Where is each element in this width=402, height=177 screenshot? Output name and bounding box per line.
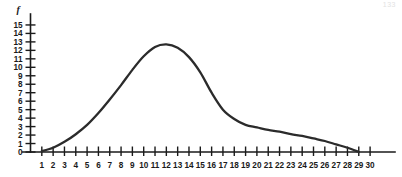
x-tick-label-21: 21 bbox=[264, 161, 274, 170]
x-tick-label-15: 15 bbox=[196, 161, 206, 170]
y-tick-label-8: 8 bbox=[18, 80, 23, 89]
y-tick-label-5: 5 bbox=[18, 106, 23, 115]
y-tick-label-1: 1 bbox=[18, 140, 23, 149]
page-number: 133 bbox=[383, 1, 396, 8]
chart-canvas: 0123456789101112131415 12345678910111213… bbox=[0, 0, 402, 177]
x-tick-label-25: 25 bbox=[309, 161, 319, 170]
x-tick-label-29: 29 bbox=[354, 161, 364, 170]
x-tick-label-10: 10 bbox=[139, 161, 149, 170]
x-tick-label-30: 30 bbox=[366, 161, 376, 170]
x-tick-label-18: 18 bbox=[230, 161, 240, 170]
y-tick-label-13: 13 bbox=[13, 38, 23, 47]
x-tick-label-14: 14 bbox=[184, 161, 194, 170]
x-tick-label-3: 3 bbox=[62, 161, 67, 170]
x-tick-label-11: 11 bbox=[151, 161, 160, 170]
x-tick-label-16: 16 bbox=[207, 161, 217, 170]
x-tick-label-4: 4 bbox=[73, 161, 78, 170]
x-tick-label-8: 8 bbox=[119, 161, 124, 170]
frequency-curve-figure: 133 0123456789101112131415 1234567891011… bbox=[0, 0, 402, 177]
y-axis-tick-labels: 0123456789101112131415 bbox=[13, 21, 23, 157]
y-tick-label-14: 14 bbox=[13, 29, 23, 38]
y-axis-label: f bbox=[17, 4, 22, 15]
y-tick-label-11: 11 bbox=[14, 55, 23, 64]
x-tick-label-26: 26 bbox=[320, 161, 330, 170]
frequency-curve-path bbox=[42, 44, 359, 152]
x-tick-label-1: 1 bbox=[40, 161, 45, 170]
y-tick-label-3: 3 bbox=[18, 123, 23, 132]
x-tick-label-24: 24 bbox=[298, 161, 308, 170]
x-tick-label-7: 7 bbox=[107, 161, 112, 170]
x-tick-label-20: 20 bbox=[252, 161, 262, 170]
x-tick-label-22: 22 bbox=[275, 161, 285, 170]
x-tick-label-28: 28 bbox=[343, 161, 353, 170]
y-tick-label-9: 9 bbox=[18, 72, 23, 81]
x-tick-label-17: 17 bbox=[218, 161, 228, 170]
x-tick-label-13: 13 bbox=[173, 161, 183, 170]
y-axis bbox=[26, 14, 36, 152]
x-tick-label-5: 5 bbox=[85, 161, 90, 170]
y-tick-label-4: 4 bbox=[18, 114, 23, 123]
y-tick-label-7: 7 bbox=[18, 89, 23, 98]
x-tick-label-9: 9 bbox=[130, 161, 135, 170]
x-tick-label-12: 12 bbox=[162, 161, 172, 170]
x-tick-label-23: 23 bbox=[286, 161, 296, 170]
x-tick-label-27: 27 bbox=[332, 161, 342, 170]
y-tick-label-12: 12 bbox=[13, 46, 23, 55]
x-tick-label-2: 2 bbox=[51, 161, 56, 170]
x-axis bbox=[23, 147, 396, 157]
y-tick-label-2: 2 bbox=[18, 131, 23, 140]
x-tick-label-19: 19 bbox=[241, 161, 251, 170]
y-tick-label-15: 15 bbox=[13, 21, 23, 30]
x-axis-tick-labels: 1234567891011121314151617181920212223242… bbox=[40, 161, 376, 170]
y-tick-label-6: 6 bbox=[18, 97, 23, 106]
y-tick-label-10: 10 bbox=[13, 63, 23, 72]
y-tick-label-0: 0 bbox=[18, 148, 23, 157]
x-tick-label-6: 6 bbox=[96, 161, 101, 170]
